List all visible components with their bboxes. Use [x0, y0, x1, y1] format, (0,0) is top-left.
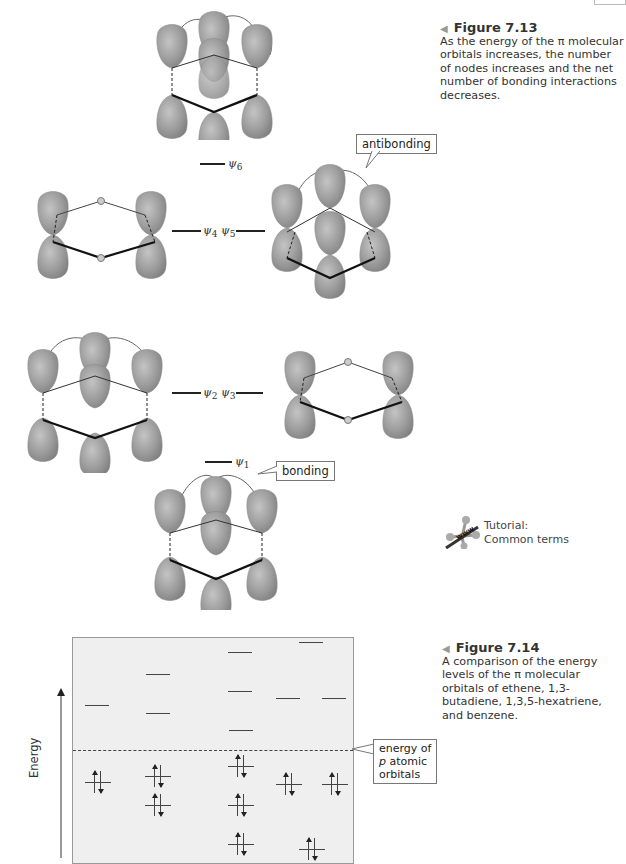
hexatriene-pair-3	[228, 753, 254, 779]
hexatriene-level-5	[228, 691, 252, 692]
figure-7-14-caption: ◀Figure 7.14 A comparison of the energy …	[442, 640, 624, 722]
benzene-level-5	[276, 698, 300, 699]
figure-number: Figure 7.13	[454, 20, 538, 35]
label-psi6: ψ6	[228, 157, 242, 172]
p-orbital-callout: energy of p atomic orbitals	[373, 739, 437, 784]
figure-7-13-title: ◀Figure 7.13	[440, 20, 624, 35]
hexatriene-pair-1	[228, 831, 254, 857]
orbital-psi4	[15, 180, 175, 290]
hexatriene-level-4	[229, 730, 253, 731]
energy-level-psi4	[172, 230, 201, 232]
ethene-bonding-pair	[85, 769, 111, 795]
hexatriene-pair-2	[228, 792, 254, 818]
figure-7-14-title: ◀Figure 7.14	[442, 640, 624, 655]
butadiene-level-4	[146, 674, 170, 675]
label-psi2: ψ2	[203, 386, 217, 401]
energy-level-chart	[72, 637, 354, 864]
energy-level-psi1	[205, 461, 232, 463]
benzene-pair-2	[322, 771, 348, 797]
www-molecule-icon: www	[444, 515, 480, 549]
benzene-pair-1	[299, 836, 325, 862]
butadiene-pair-2	[145, 763, 171, 789]
label-psi4: ψ4	[203, 224, 217, 239]
energy-axis-arrow	[56, 688, 66, 858]
figure-7-14-text: A comparison of the energy levels of the…	[442, 655, 624, 722]
orbital-psi3	[262, 340, 422, 450]
tutorial-topic: Common terms	[484, 533, 569, 547]
p-orbital-reference-line	[73, 750, 353, 751]
hexatriene-level-6	[228, 652, 252, 653]
triangle-marker-icon: ◀	[442, 643, 450, 654]
benzene-level-4	[322, 698, 346, 699]
orbital-psi1	[150, 465, 290, 610]
label-psi3: ψ3	[221, 386, 235, 401]
label-psi5: ψ5	[221, 224, 235, 239]
orbital-psi5	[265, 160, 405, 300]
orbital-psi2	[15, 328, 175, 473]
callout-line-2: p atomic	[379, 755, 431, 768]
callout-line-3: orbitals	[379, 768, 431, 781]
tutorial-label: Tutorial:	[484, 519, 569, 533]
benzene-pair-3	[276, 771, 302, 797]
figure-7-13-text: As the energy of the π molecular orbital…	[440, 35, 624, 102]
butadiene-pair-1	[145, 792, 171, 818]
callout-line-1: energy of	[379, 742, 431, 755]
triangle-marker-icon: ◀	[440, 23, 448, 34]
ethene-antibonding-level	[85, 705, 109, 706]
page-corner-box	[594, 0, 626, 5]
butadiene-level-3	[146, 713, 170, 714]
energy-level-psi5	[236, 230, 265, 232]
energy-axis-label: Energy	[27, 738, 41, 778]
orbital-psi6-top	[150, 0, 290, 140]
benzene-level-6	[299, 642, 323, 643]
figure-number: Figure 7.14	[456, 640, 540, 655]
energy-level-psi2	[172, 392, 201, 394]
energy-level-psi3	[236, 392, 263, 394]
energy-level-psi6	[200, 163, 225, 165]
figure-7-13-caption: ◀Figure 7.13 As the energy of the π mole…	[440, 20, 624, 102]
